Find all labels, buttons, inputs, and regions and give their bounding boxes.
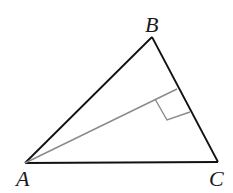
vertex-label-c: C (209, 166, 224, 191)
vertex-label-a: A (14, 166, 30, 191)
altitude-line (25, 89, 177, 163)
right-angle-marker (155, 99, 190, 120)
side-bc (152, 37, 218, 162)
side-ab (25, 37, 152, 163)
triangle-diagram: A B C (0, 0, 233, 193)
vertex-label-b: B (145, 12, 158, 37)
side-ac (25, 162, 218, 163)
